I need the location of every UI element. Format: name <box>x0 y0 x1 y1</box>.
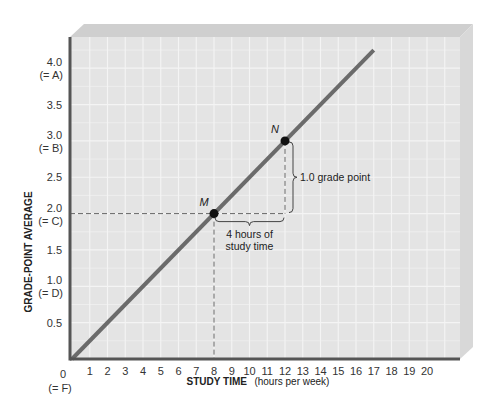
y-tick-sublabel: (= A) <box>39 69 63 81</box>
origin-label: 0 <box>60 368 66 380</box>
y-tick-label: 3.0 <box>47 129 62 141</box>
x-axis-label-unit: (hours per week) <box>254 376 329 387</box>
x-tick-label: 5 <box>158 365 164 377</box>
x-tick-label: 3 <box>122 365 128 377</box>
y-axis-label: GRADE-POINT AVERAGE <box>23 191 34 312</box>
right-bevel <box>460 24 473 359</box>
y-tick-label: 2.5 <box>47 171 62 183</box>
y-tick-label: 2.0 <box>47 202 62 214</box>
x-tick-label: 1 <box>87 365 93 377</box>
x-tick-label: 15 <box>332 365 344 377</box>
x-axis-label-main: STUDY TIME <box>187 376 248 387</box>
point-n-label: N <box>271 123 279 135</box>
x-tick-label: 17 <box>368 365 380 377</box>
x-tick-label: 18 <box>385 365 397 377</box>
point-m-label: M <box>199 196 209 208</box>
y-tick-label: 0.5 <box>47 317 62 329</box>
annotation-study-time: study time <box>226 240 274 252</box>
origin-sublabel: (= F) <box>48 382 72 394</box>
y-tick-sublabel: (= C) <box>38 215 63 227</box>
x-tick-label: 6 <box>175 365 181 377</box>
annotation-study-time: 4 hours of <box>226 228 273 240</box>
x-tick-label: 20 <box>421 365 433 377</box>
y-tick-label: 1.0 <box>47 274 62 286</box>
plot-face <box>70 37 460 359</box>
annotation-grade-point: 1.0 grade point <box>300 171 370 183</box>
point-m <box>210 209 219 218</box>
top-bevel <box>70 24 473 37</box>
y-tick-label: 4.0 <box>47 56 62 68</box>
x-tick-label: 16 <box>350 365 362 377</box>
x-tick-label: 4 <box>140 365 146 377</box>
x-tick-label: 19 <box>403 365 415 377</box>
y-tick-sublabel: (= D) <box>38 287 63 299</box>
y-tick-label: 3.5 <box>47 99 62 111</box>
y-tick-sublabel: (= B) <box>39 142 63 154</box>
x-tick-label: 2 <box>104 365 110 377</box>
chart-svg: 12345678910111213141516171819200(= F)0.5… <box>0 0 484 410</box>
y-tick-label: 1.5 <box>47 244 62 256</box>
point-n <box>281 136 290 145</box>
plot-3d-frame <box>70 24 473 359</box>
